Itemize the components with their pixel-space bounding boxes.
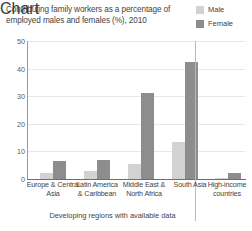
bar-male-3[interactable] <box>128 164 141 179</box>
bar-male-4[interactable] <box>172 142 185 179</box>
bar-group-4 <box>164 41 206 179</box>
y-tick-label-30: 30 <box>0 92 25 101</box>
legend-label-male: Male <box>208 6 224 14</box>
chart-title: Contributing family workers as a percent… <box>6 5 186 26</box>
bar-group-5 <box>210 41 246 179</box>
chart-legend: Male Female <box>196 6 233 28</box>
x-axis-label-5: High-income countries <box>205 181 249 198</box>
x-axis-group-caption: Developing regions with available data <box>30 211 195 220</box>
legend-swatch-female-icon <box>196 20 204 28</box>
chart-root: Contributing family workers as a percent… <box>0 0 252 231</box>
y-tick-label-40: 40 <box>0 64 25 73</box>
bar-male-2[interactable] <box>84 171 97 179</box>
legend-swatch-male-icon <box>196 6 204 14</box>
y-tick-label-50: 50 <box>0 37 25 46</box>
bars-container <box>28 41 246 179</box>
bar-female-2[interactable] <box>97 160 110 179</box>
legend-item-female: Female <box>196 20 233 28</box>
bar-male-5[interactable] <box>215 178 228 179</box>
bar-group-3 <box>120 41 162 179</box>
bar-group-2 <box>76 41 118 179</box>
x-axis-label-2: Latin America & Caribbean <box>73 181 121 198</box>
bar-female-4[interactable] <box>185 62 198 179</box>
y-tick-label-10: 10 <box>0 147 25 156</box>
y-tick-label-0: 0 <box>0 175 25 184</box>
bar-female-3[interactable] <box>141 93 154 179</box>
y-tick-label-20: 20 <box>0 119 25 128</box>
legend-label-female: Female <box>208 20 233 28</box>
legend-item-male: Male <box>196 6 233 14</box>
x-axis-label-3: Middle East & North Africa <box>115 181 173 198</box>
bar-male-1[interactable] <box>40 173 53 179</box>
bar-female-1[interactable] <box>53 161 66 179</box>
bar-group-1 <box>32 41 74 179</box>
bar-female-5[interactable] <box>228 173 241 179</box>
y-axis-tick-labels: 01020304050 <box>0 41 25 179</box>
